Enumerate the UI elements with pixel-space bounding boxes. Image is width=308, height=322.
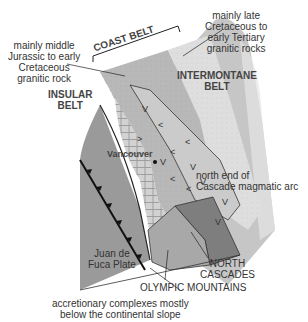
svg-text:<: < [185,137,190,147]
insular-belt-label: INSULAR BELT [48,89,92,111]
cascade-arc-label: north end of Cascade magmatic arc [196,170,298,192]
svg-text:<: < [186,184,191,194]
vancouver-label: Vancouver [107,149,153,160]
accretionary-label: accretionary complexes mostly below the … [52,298,189,320]
olympic-mountains-label: OLYMPIC MOUNTAINS [140,282,246,293]
vancouver-marker [153,160,157,164]
svg-text:V: V [215,217,221,227]
svg-text:>: > [137,134,142,144]
north-cascades-label: NORTH CASCADES [200,258,255,280]
svg-text:V: V [160,157,166,167]
svg-text:V: V [142,104,148,114]
juan-de-fuca-label: Juan de Fuca Plate [88,248,136,270]
svg-text:V: V [222,197,228,207]
intermontane-belt-label: INTERMONTANE BELT [177,70,257,92]
svg-text:<: < [170,147,175,157]
svg-text:<: < [158,120,163,130]
late-cretaceous-label: mainly late Cretaceous to early Tertiary… [205,10,267,54]
svg-text:<: < [170,174,175,184]
middle-jurassic-label: mainly middle Jurassic to early Cretaceo… [8,40,80,84]
